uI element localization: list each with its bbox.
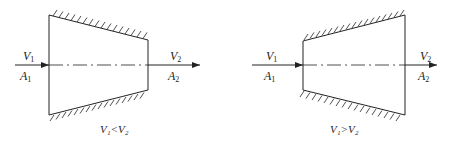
left-hatching [50,10,147,121]
nozzle-diffuser-diagram: V1 A1 V2 A2 V₁<V₂ [0,0,451,144]
left-diagram-converging: V1 A1 V2 A2 V₁<V₂ [15,10,200,135]
right-v1-label: V1 [266,49,277,64]
right-caption: V₁>V₂ [330,123,359,135]
right-a2-label: A2 [417,69,429,84]
right-a1-label: A1 [263,69,275,84]
right-diagram-diverging: V1 A1 V2 A2 V₁>V₂ [252,10,437,135]
right-hatching [300,10,404,121]
left-v2-label: V2 [170,49,181,64]
left-a1-label: A1 [19,69,31,84]
right-v2-label: V2 [420,49,431,64]
left-caption: V₁<V₂ [100,123,129,135]
left-v1-label: V1 [23,49,34,64]
left-a2-label: A2 [167,69,179,84]
